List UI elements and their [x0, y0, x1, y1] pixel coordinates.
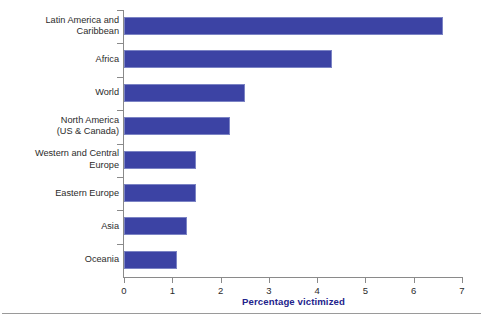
y-axis-tick: [117, 177, 123, 178]
x-axis-tick: [269, 278, 270, 283]
bar-band: [124, 77, 462, 110]
bar-band: [124, 177, 462, 210]
category-label: North America (US & Canada): [5, 115, 119, 138]
x-axis-tick: [221, 278, 222, 283]
x-axis-tick-label: 7: [449, 285, 475, 296]
x-axis-tick-label: 2: [208, 285, 234, 296]
category-label: Oceania: [5, 254, 119, 265]
bar: [124, 50, 332, 68]
category-label: Africa: [5, 54, 119, 65]
category-label: Eastern Europe: [5, 188, 119, 199]
category-label: Asia: [5, 221, 119, 232]
x-axis-tick: [317, 278, 318, 283]
y-axis-tick: [117, 210, 123, 211]
bar-band: [124, 110, 462, 143]
bar-band: [124, 10, 462, 43]
bar: [124, 251, 177, 269]
bar: [124, 184, 196, 202]
bar-chart: Latin America and CaribbeanAfricaWorldNo…: [0, 0, 483, 323]
x-axis-title: Percentage victimized: [124, 296, 463, 307]
y-axis-tick: [117, 77, 123, 78]
x-axis-tick-label: 1: [159, 285, 185, 296]
x-axis-tick: [414, 278, 415, 283]
category-label: World: [5, 87, 119, 98]
y-axis-tick: [117, 144, 123, 145]
y-axis-tick: [117, 110, 123, 111]
plot-area: [124, 10, 462, 277]
bar: [124, 17, 443, 35]
bar-band: [124, 144, 462, 177]
y-axis-tick: [117, 244, 123, 245]
y-axis-tick: [117, 10, 123, 11]
x-axis-tick-label: 3: [256, 285, 282, 296]
category-label: Latin America and Caribbean: [5, 15, 119, 38]
x-axis-tick: [124, 278, 125, 283]
x-axis-tick: [462, 278, 463, 283]
x-axis-tick-label: 0: [111, 285, 137, 296]
bar: [124, 84, 245, 102]
x-axis-tick-label: 6: [401, 285, 427, 296]
bottom-divider: [2, 313, 481, 314]
x-axis-tick-label: 5: [352, 285, 378, 296]
bar: [124, 151, 196, 169]
bar-band: [124, 43, 462, 76]
bar-band: [124, 244, 462, 277]
bar: [124, 117, 230, 135]
x-axis-tick: [365, 278, 366, 283]
y-axis-tick: [117, 43, 123, 44]
bar-band: [124, 210, 462, 243]
category-label: Western and Central Europe: [5, 148, 119, 171]
x-axis-tick-label: 4: [304, 285, 330, 296]
bar: [124, 217, 187, 235]
x-axis-tick: [172, 278, 173, 283]
